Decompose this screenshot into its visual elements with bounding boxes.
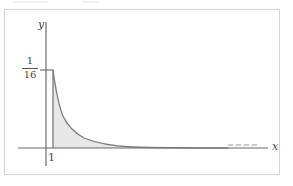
shaded-area — [53, 70, 228, 148]
fraction-numerator: 1 — [21, 56, 39, 67]
figure-container: y x 1 1 16 — [0, 0, 293, 186]
x-tick-label-one: 1 — [48, 152, 55, 163]
y-tick-label-fraction: 1 16 — [21, 56, 39, 80]
fraction-denominator: 16 — [21, 70, 39, 81]
x-axis-label: x — [272, 141, 278, 152]
y-axis-label: y — [38, 19, 44, 30]
